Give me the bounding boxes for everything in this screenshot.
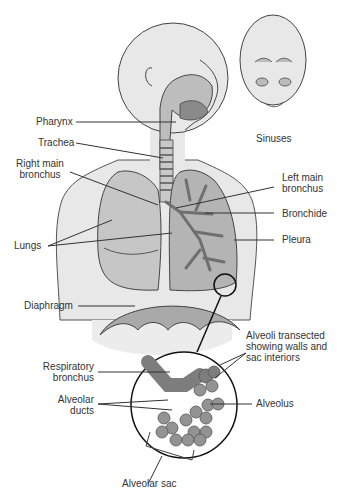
head <box>118 23 228 133</box>
label-alveolus: Alveolus <box>256 398 294 409</box>
label-alveolar-sac: Alveolar sac <box>122 478 176 489</box>
label-bronchide: Bronchide <box>282 208 327 219</box>
label-pharynx: Pharynx <box>36 116 73 127</box>
right-lung <box>98 171 161 290</box>
label-pleura: Pleura <box>282 234 311 245</box>
label-lungs: Lungs <box>14 240 41 251</box>
label-right-main-bronchus: Right main bronchus <box>14 158 66 180</box>
label-alveoli-transected: Alveoli transected showing walls and sac… <box>246 330 327 363</box>
label-respiratory-bronchus: Respiratory bronchus <box>30 361 94 383</box>
sinuses-face <box>240 15 306 105</box>
label-alveolar-ducts: Alveolar ducts <box>30 394 94 416</box>
label-diaphragm: Diaphragm <box>24 300 73 311</box>
label-sinuses: Sinuses <box>256 133 292 144</box>
respiratory-diagram <box>0 0 337 495</box>
label-left-main-bronchus: Left main bronchus <box>282 172 323 194</box>
label-trachea: Trachea <box>38 137 74 148</box>
